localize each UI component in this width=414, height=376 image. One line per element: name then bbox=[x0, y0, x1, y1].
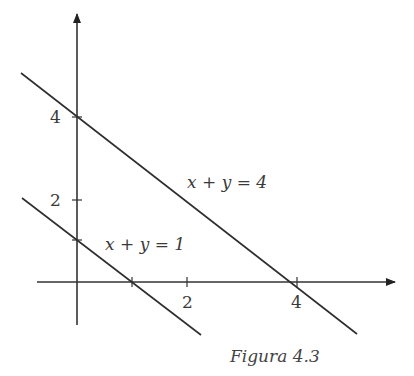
equation-label-x-plus-y-eq-4: x + y = 4 bbox=[187, 172, 267, 192]
figure-caption: Figura 4.3 bbox=[229, 346, 320, 366]
x-tick-label-2: 2 bbox=[182, 292, 193, 312]
y-tick-label-4: 4 bbox=[50, 107, 61, 127]
line-x-plus-y-eq-1 bbox=[22, 198, 201, 335]
y-tick-label-2: 2 bbox=[50, 190, 61, 210]
equation-label-x-plus-y-eq-1: x + y = 1 bbox=[105, 234, 185, 254]
x-tick-label-4: 4 bbox=[291, 292, 302, 312]
coordinate-diagram: 2 4 4 2 x + y = 4 x + y = 1 Figura 4.3 bbox=[0, 0, 414, 376]
